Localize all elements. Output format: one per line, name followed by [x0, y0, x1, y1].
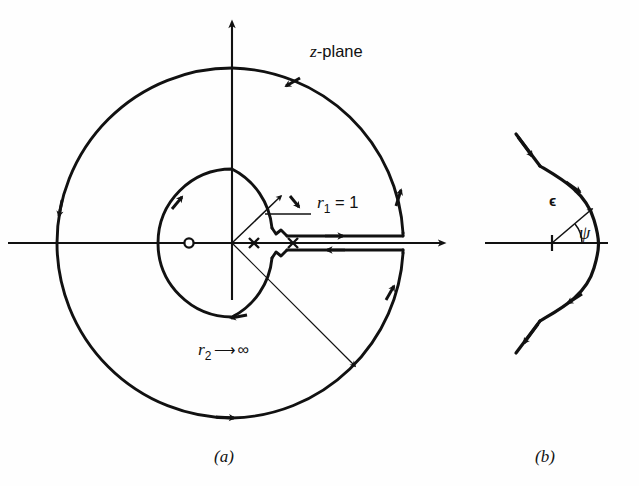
panel-b-incoming-arrow — [518, 137, 532, 156]
outer-radius-label: r2⟶∞ — [198, 339, 249, 363]
outer-contour-upper — [57, 68, 403, 243]
zero-marker — [184, 238, 193, 247]
panel-a-caption: (a) — [214, 447, 234, 466]
panel-b-arc-arrow-upper — [566, 182, 580, 192]
panel-a-caption-text: (a) — [214, 447, 234, 466]
outer-contour-lower — [57, 243, 403, 418]
epsilon-label: ϵ — [549, 192, 556, 209]
inner-radius-label-equals: = 1 — [331, 193, 359, 211]
branch-cut-lower-jog — [272, 250, 287, 258]
inner-radius-label: r1 = 1 — [317, 192, 358, 216]
psi-label-text: ψ — [579, 223, 591, 243]
outer-radius-label-arrow: ⟶ — [214, 341, 236, 358]
inner-arrow-upper-right — [290, 196, 299, 207]
panel-b-outgoing-arrow — [524, 324, 538, 343]
figure-root: z-plane r1 = 1 r2⟶∞ (a) — [0, 0, 639, 486]
outer-radius-label-infinity: ∞ — [238, 341, 249, 358]
z-plane-label: z-plane — [309, 41, 363, 61]
inner-radius-arrow — [232, 196, 281, 243]
outer-radius-label-subscript: 2 — [205, 349, 212, 363]
branch-cut-upper-jog — [272, 228, 287, 236]
z-plane-label-rest: -plane — [317, 42, 363, 60]
panel-b-caption: (b) — [535, 447, 555, 466]
panel-a: z-plane r1 = 1 r2⟶∞ (a) — [8, 22, 444, 466]
outer-arrow-bottom — [216, 417, 234, 418]
epsilon-label-text: ϵ — [549, 192, 556, 209]
panel-b-caption-text: (b) — [535, 447, 555, 466]
outer-arrow-lower-right — [386, 286, 394, 300]
panel-b: ϵ ψ (b) — [485, 134, 608, 466]
outer-arrow-left — [59, 200, 62, 216]
z-plane-label-z: z — [309, 41, 317, 61]
psi-label: ψ — [579, 223, 591, 243]
figure-canvas: z-plane r1 = 1 r2⟶∞ (a) — [0, 0, 639, 486]
